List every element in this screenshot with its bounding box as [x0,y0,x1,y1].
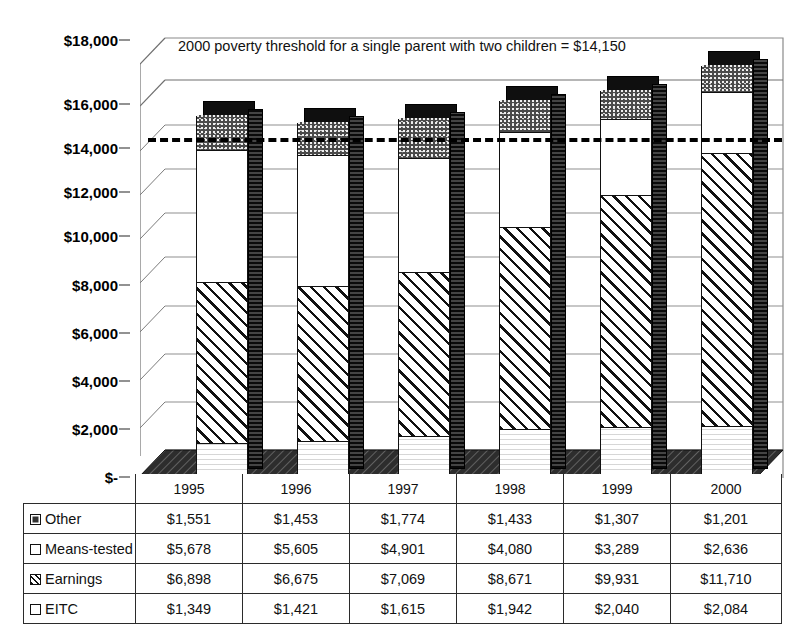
segment-means-1995 [197,151,247,283]
bar-front-1999 [600,91,652,476]
legend-row-eitc[interactable]: EITC [24,594,136,624]
cell-eitc-2000: $2,084 [671,594,782,624]
legend-swatch-other-icon [30,514,41,525]
segment-eitc-1997 [399,437,449,475]
bar-side-face-2000 [753,59,768,469]
cell-earnings-1998: $8,671 [457,564,564,594]
cell-eitc-1997: $1,615 [350,594,457,624]
bar-side-face-1995 [248,109,263,469]
legend-row-other[interactable]: Other [24,504,136,534]
cell-means-1996: $5,605 [243,534,350,564]
y-tick-label: $14,000 [0,140,118,157]
y-tick-mark [119,236,130,237]
y-tick-label: $12,000 [0,184,118,201]
poverty-threshold-line [148,138,782,142]
cell-earnings-1996: $6,675 [243,564,350,594]
column-header-1999: 1999 [564,474,671,504]
segment-other-2000 [702,65,752,93]
segment-eitc-1999 [601,428,651,475]
cell-eitc-1996: $1,421 [243,594,350,624]
cell-earnings-2000: $11,710 [671,564,782,594]
table-row: Other $1,551 $1,453 $1,774 $1,433 $1,307… [24,504,782,534]
segment-eitc-2000 [702,427,752,475]
cell-other-1998: $1,433 [457,504,564,534]
segment-means-1998 [500,133,550,228]
column-header-1996: 1996 [243,474,350,504]
bar-front-1995 [196,116,248,476]
y-tick-label: $6,000 [0,325,118,342]
cell-earnings-1999: $9,931 [564,564,671,594]
bar-front-1996 [297,123,349,476]
y-tick-label: $2,000 [0,421,118,438]
segment-eitc-1998 [500,430,550,475]
segment-earnings-1998 [500,228,550,430]
segment-eitc-1996 [298,442,348,475]
segment-other-1999 [601,90,651,120]
segment-earnings-2000 [702,154,752,427]
table-corner-cell [24,474,136,504]
column-header-1998: 1998 [457,474,564,504]
y-tick-mark [119,285,130,286]
plot-area: 2000 poverty threshold for a single pare… [140,8,788,478]
bar-series-group [140,8,788,478]
table-header-row: 1995 1996 1997 1998 1999 2000 [24,474,782,504]
segment-eitc-1995 [197,444,247,475]
cell-eitc-1998: $1,942 [457,594,564,624]
bar-side-face-1997 [450,112,465,469]
y-tick-label: $18,000 [0,32,118,49]
segment-means-1996 [298,156,348,287]
cell-other-2000: $1,201 [671,504,782,534]
legend-label-eitc: EITC [45,601,78,617]
threshold-annotation: 2000 poverty threshold for a single pare… [178,38,626,54]
table-row: Earnings $6,898 $6,675 $7,069 $8,671 $9,… [24,564,782,594]
y-tick-label: $8,000 [0,277,118,294]
y-tick-mark [119,104,130,105]
legend-swatch-earnings-icon [30,574,41,585]
legend-label-earnings: Earnings [45,571,102,587]
legend-label-other: Other [45,511,81,527]
bar-side-face-1996 [349,116,364,469]
legend-label-means-tested: Means-tested [45,541,133,557]
data-table: 1995 1996 1997 1998 1999 2000 Other $1,5… [23,474,782,624]
column-header-1995: 1995 [136,474,243,504]
y-tick-label: $4,000 [0,373,118,390]
y-tick-mark [119,381,130,382]
segment-other-1995 [197,115,247,151]
bar-front-1998 [499,101,551,476]
cell-eitc-1999: $2,040 [564,594,671,624]
y-tick-mark [119,40,130,41]
column-header-2000: 2000 [671,474,782,504]
y-tick-mark [119,148,130,149]
column-header-1997: 1997 [350,474,457,504]
y-tick-mark [119,333,130,334]
segment-earnings-1995 [197,283,247,444]
y-tick-label: $16,000 [0,96,118,113]
y-tick-mark [119,192,130,193]
segment-means-2000 [702,93,752,154]
segment-earnings-1997 [399,273,449,437]
cell-means-1997: $4,901 [350,534,457,564]
cell-means-1999: $3,289 [564,534,671,564]
cell-other-1996: $1,453 [243,504,350,534]
segment-means-1997 [399,159,449,273]
segment-other-1998 [500,100,550,133]
cell-other-1997: $1,774 [350,504,457,534]
y-axis: $18,000 $16,000 $14,000 $12,000 $10,000 … [0,0,140,480]
segment-earnings-1996 [298,287,348,442]
cell-other-1999: $1,307 [564,504,671,534]
bar-side-face-1998 [551,94,566,469]
table-row: Means-tested $5,678 $5,605 $4,901 $4,080… [24,534,782,564]
segment-means-1999 [601,120,651,196]
legend-row-means-tested[interactable]: Means-tested [24,534,136,564]
cell-eitc-1995: $1,349 [136,594,243,624]
table-row: EITC $1,349 $1,421 $1,615 $1,942 $2,040 … [24,594,782,624]
cell-other-1995: $1,551 [136,504,243,534]
cell-means-1995: $5,678 [136,534,243,564]
legend-swatch-means-tested-icon [30,544,41,555]
y-tick-label: $10,000 [0,228,118,245]
segment-earnings-1999 [601,196,651,428]
legend-row-earnings[interactable]: Earnings [24,564,136,594]
legend-swatch-eitc-icon [30,604,41,615]
cell-earnings-1995: $6,898 [136,564,243,594]
